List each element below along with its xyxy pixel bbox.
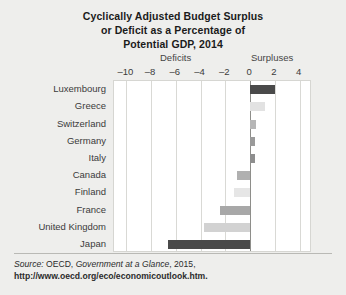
source-divider bbox=[14, 253, 332, 254]
bar bbox=[204, 223, 250, 232]
source-url: http://www.oecd.org/eco/economicoutlook.… bbox=[14, 271, 208, 281]
x-tick-label-4: –2 bbox=[219, 66, 230, 78]
category-label: Japan bbox=[80, 238, 106, 249]
category-labels: LuxembourgGreeceSwitzerlandGermanyItalyC… bbox=[0, 80, 110, 252]
bar bbox=[250, 120, 256, 129]
category-label: Luxembourg bbox=[53, 83, 106, 94]
gridline-1 bbox=[151, 81, 152, 251]
bar bbox=[250, 85, 275, 94]
category-label: Germany bbox=[67, 135, 106, 146]
source-note: Source: OECD, Government at a Glance, 20… bbox=[0, 258, 346, 282]
chart-figure: Cyclically Adjusted Budget Surplus or De… bbox=[0, 0, 346, 295]
surpluses-header: Surpluses bbox=[251, 52, 293, 64]
bar bbox=[220, 206, 250, 215]
source-year: , 2015, bbox=[169, 259, 195, 269]
x-tick-label-5: 0 bbox=[246, 66, 251, 78]
title-line-2: or Deficit as a Percentage of bbox=[0, 23, 346, 37]
category-label: France bbox=[76, 204, 106, 215]
plot-area-wrapper: LuxembourgGreeceSwitzerlandGermanyItalyC… bbox=[0, 80, 346, 252]
bar bbox=[250, 102, 265, 111]
deficits-header: Deficits bbox=[160, 52, 191, 64]
x-tick-label-0: –10 bbox=[117, 66, 133, 78]
x-axis-tick-labels: –10–8–6–4–2024 bbox=[0, 66, 346, 80]
gridline-2 bbox=[176, 81, 177, 251]
category-label: Finland bbox=[75, 186, 106, 197]
category-label: United Kingdom bbox=[38, 221, 106, 232]
source-publication: Government at a Glance bbox=[76, 259, 170, 269]
bar bbox=[237, 171, 251, 180]
plot-area bbox=[113, 80, 311, 252]
chart-title: Cyclically Adjusted Budget Surplus or De… bbox=[0, 0, 346, 51]
source-lead: Source: bbox=[14, 259, 44, 269]
gridline-7 bbox=[300, 81, 301, 251]
x-tick-label-6: 2 bbox=[271, 66, 276, 78]
category-label: Canada bbox=[73, 169, 106, 180]
gridline-0 bbox=[126, 81, 127, 251]
x-tick-label-7: 4 bbox=[296, 66, 301, 78]
bar bbox=[250, 137, 255, 146]
title-line-3: Potential GDP, 2014 bbox=[0, 37, 346, 51]
bar bbox=[234, 188, 250, 197]
source-org: OECD, bbox=[44, 259, 76, 269]
x-tick-label-1: –8 bbox=[145, 66, 156, 78]
bar bbox=[250, 154, 255, 163]
gridline-3 bbox=[201, 81, 202, 251]
gridline-6 bbox=[275, 81, 276, 251]
category-label: Italy bbox=[89, 152, 106, 163]
x-tick-label-2: –6 bbox=[170, 66, 181, 78]
category-label: Switzerland bbox=[57, 118, 106, 129]
axis-side-headers: Deficits Surpluses bbox=[0, 52, 346, 66]
bar bbox=[168, 240, 250, 249]
title-line-1: Cyclically Adjusted Budget Surplus bbox=[0, 9, 346, 23]
x-tick-label-3: –4 bbox=[194, 66, 205, 78]
category-label: Greece bbox=[75, 100, 106, 111]
